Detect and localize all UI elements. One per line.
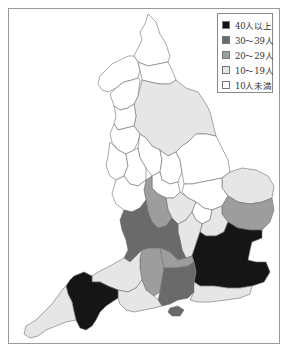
legend: 40人以上 30～39人 20～29人 10～19人 10人未満 xyxy=(217,13,273,93)
swatch-20-29-icon xyxy=(222,51,230,59)
region-northumberland xyxy=(134,14,170,66)
legend-label: 20～29人 xyxy=(235,49,273,61)
legend-item-20-29: 20～29人 xyxy=(222,47,269,62)
region-isle-of-wight xyxy=(168,306,184,316)
swatch-30-39-icon xyxy=(222,36,230,44)
swatch-40plus-icon xyxy=(222,21,230,29)
legend-item-40plus: 40人以上 xyxy=(222,17,269,32)
legend-label: 10～19人 xyxy=(235,64,273,76)
region-cornwall xyxy=(24,286,76,338)
legend-label: 40人以上 xyxy=(235,19,272,31)
legend-item-under10: 10人未満 xyxy=(222,77,269,92)
legend-label: 10人未満 xyxy=(235,79,272,91)
legend-item-30-39: 30～39人 xyxy=(222,32,269,47)
legend-item-10-19: 10～19人 xyxy=(222,62,269,77)
swatch-10-19-icon xyxy=(222,66,230,74)
swatch-under10-icon xyxy=(222,81,230,89)
legend-label: 30～39人 xyxy=(235,34,273,46)
